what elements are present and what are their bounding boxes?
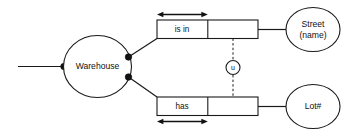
- entity-lot-label: Lot#: [305, 101, 322, 111]
- entity-street-label-line1: Street: [302, 19, 326, 29]
- predicate-isin-label: is in: [175, 25, 190, 34]
- connector-warehouse-to-has: [129, 77, 158, 97]
- connector-warehouse-to-isin: [129, 39, 158, 58]
- isin-arrow-head-left: [157, 12, 163, 17]
- diagram-svg: Warehouse is in has u Street: [0, 0, 351, 131]
- has-arrow-head-right: [201, 119, 207, 124]
- orm-diagram-canvas: Warehouse is in has u Street: [0, 0, 351, 131]
- has-arrow-head-left: [157, 119, 163, 124]
- isin-arrow-head-right: [201, 12, 207, 17]
- predicate-has-label: has: [175, 102, 188, 111]
- entity-warehouse-label: Warehouse: [76, 61, 120, 71]
- uniqueness-constraint-label: u: [231, 64, 235, 71]
- entity-street-label-line2: (name): [299, 30, 326, 40]
